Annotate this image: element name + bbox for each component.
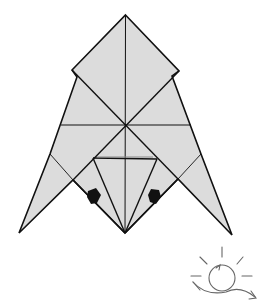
right-marker bbox=[148, 189, 161, 204]
origami-diagram: Origami fold step bbox=[0, 0, 268, 308]
origami-model bbox=[0, 0, 268, 308]
turn-over-icon bbox=[191, 247, 256, 299]
